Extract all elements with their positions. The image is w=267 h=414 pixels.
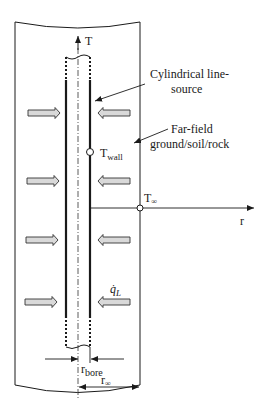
- heat-arrows-right: [98, 108, 130, 308]
- ground-region-outline: [15, 22, 140, 393]
- far-field-label: Far-field: [171, 122, 213, 136]
- r-axis-label: r: [240, 214, 244, 228]
- heat-arrow-icon: [98, 176, 130, 187]
- heat-arrows-left: [25, 108, 60, 308]
- r-bore-label: rbore: [81, 362, 103, 378]
- t-axis-label: T: [85, 34, 93, 48]
- r-infinity-label: r∞: [101, 373, 111, 388]
- heat-arrow-icon: [98, 297, 130, 308]
- line-source-label: Cylindrical line-: [150, 67, 229, 81]
- line-source-label-2: source: [171, 82, 202, 96]
- heat-arrow-icon: [28, 108, 60, 119]
- t-wall-label: Twall: [100, 146, 123, 162]
- t-infinity-point: [137, 205, 143, 211]
- heat-flux-label: q̇L: [110, 282, 121, 298]
- r-bore-dimension: [45, 347, 124, 363]
- heat-arrow-icon: [98, 235, 130, 246]
- heat-arrow-icon: [26, 235, 58, 246]
- far-field-label-2: ground/soil/rock: [150, 137, 229, 151]
- t-wall-point: [87, 149, 94, 156]
- t-infinity-label: T∞: [144, 191, 157, 206]
- heat-arrow-icon: [25, 297, 57, 308]
- borehole-diagram: T Cylindrical line- source Far-field gro…: [0, 0, 267, 414]
- line-source-leader: [95, 84, 145, 101]
- heat-arrow-icon: [98, 108, 130, 119]
- heat-arrow-icon: [27, 176, 59, 187]
